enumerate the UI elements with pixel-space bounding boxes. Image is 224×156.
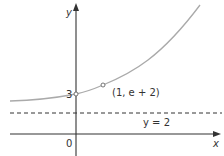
y-intercept-label: 3 xyxy=(66,89,72,100)
x-axis-arrow-icon xyxy=(213,131,221,137)
point-1-e-plus-2 xyxy=(101,83,105,87)
asymptote-label: y = 2 xyxy=(143,117,170,128)
origin-label: 0 xyxy=(66,138,72,149)
graph-svg: y x 0 3 (1, e + 2) y = 2 xyxy=(0,0,224,156)
y-axis-label: y xyxy=(65,7,73,18)
point-y-intercept xyxy=(74,92,78,96)
y-axis-arrow-icon xyxy=(73,3,79,11)
exponential-curve xyxy=(10,5,200,101)
point-label: (1, e + 2) xyxy=(112,87,160,98)
graph-figure: y x 0 3 (1, e + 2) y = 2 xyxy=(0,0,224,156)
x-axis-label: x xyxy=(212,138,219,149)
